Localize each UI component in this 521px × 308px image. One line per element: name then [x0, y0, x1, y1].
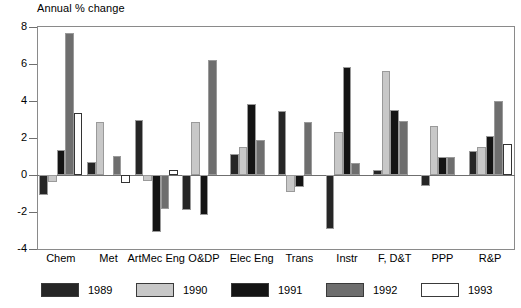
y-tick-label: -4	[1, 243, 27, 254]
y-tick-label: -2	[1, 206, 27, 217]
y-tick-mark	[29, 175, 37, 176]
bar-trans-1991	[295, 175, 304, 187]
chart-legend: 19891990199119921993	[37, 281, 515, 301]
y-tick-mark	[29, 101, 37, 102]
bar-r-p-1989	[469, 151, 478, 175]
bar-f-d-t-1990	[382, 71, 391, 175]
y-tick-label: 2	[1, 132, 27, 143]
zero-baseline	[37, 175, 515, 176]
y-tick-label: 0	[1, 169, 27, 180]
y-tick-mark	[29, 212, 37, 213]
legend-label: 1991	[278, 285, 302, 296]
legend-label: 1990	[183, 285, 207, 296]
bar-r-p-1992	[494, 101, 503, 175]
bar-chem-1993	[74, 113, 83, 175]
legend-item-1992[interactable]: 1992	[326, 281, 397, 299]
bar-met-1990	[96, 122, 105, 175]
bar-r-p-1993	[503, 144, 512, 175]
bar-ppp-1992	[447, 157, 456, 176]
bar-chart: Annual % change 86420-2-4 ChemMetArtMec …	[0, 0, 521, 308]
bar-o-dp-1991	[200, 175, 209, 215]
y-tick-label: 4	[1, 95, 27, 106]
bar-chem-1991	[57, 150, 66, 175]
bar-met-1989	[87, 162, 96, 175]
bar-instr-1990	[334, 132, 343, 175]
y-tick-mark	[29, 27, 37, 28]
legend-swatch-1993	[421, 283, 459, 297]
bar-met-1993	[121, 175, 130, 183]
bar-ppp-1991	[438, 157, 447, 176]
bar-chem-1992	[65, 33, 74, 175]
bar-elec-eng-1991	[247, 104, 256, 175]
bar-ppp-1990	[430, 126, 439, 175]
plot-border-bottom	[37, 249, 515, 250]
bar-trans-1990	[286, 175, 295, 192]
y-tick-mark	[29, 138, 37, 139]
legend-item-1991[interactable]: 1991	[231, 281, 302, 299]
bar-met-1992	[113, 156, 122, 175]
legend-swatch-1990	[136, 283, 174, 297]
y-axis-line	[37, 26, 38, 250]
y-tick-mark	[29, 249, 37, 250]
bar-instr-1991	[343, 67, 352, 175]
bar-artmec-eng-1990	[143, 175, 152, 181]
y-tick-label: 6	[1, 58, 27, 69]
legend-swatch-1989	[41, 283, 79, 297]
bar-chem-1990	[48, 175, 57, 182]
bar-instr-1992	[351, 163, 360, 175]
bar-f-d-t-1991	[390, 110, 399, 175]
legend-label: 1992	[373, 285, 397, 296]
legend-item-1990[interactable]: 1990	[136, 281, 207, 299]
bar-artmec-eng-1992	[161, 175, 170, 209]
legend-label: 1989	[88, 285, 112, 296]
bar-f-d-t-1992	[399, 121, 408, 175]
legend-item-1993[interactable]: 1993	[421, 281, 492, 299]
bar-instr-1989	[326, 175, 335, 229]
legend-item-1989[interactable]: 1989	[41, 281, 112, 299]
bar-o-dp-1990	[191, 122, 200, 175]
bar-r-p-1991	[486, 136, 495, 175]
bar-artmec-eng-1991	[152, 175, 161, 232]
x-tick-label: R&P	[458, 252, 521, 265]
bar-r-p-1990	[477, 147, 486, 175]
bar-o-dp-1989	[182, 175, 191, 210]
y-axis-title: Annual % change	[37, 2, 125, 14]
bar-o-dp-1992	[208, 60, 217, 175]
legend-swatch-1991	[231, 283, 269, 297]
bar-trans-1989	[278, 111, 287, 175]
bar-elec-eng-1990	[239, 147, 248, 175]
plot-border-right	[514, 26, 515, 250]
bar-artmec-eng-1993	[169, 170, 178, 175]
plot-border-top	[37, 26, 515, 27]
bar-artmec-eng-1989	[135, 120, 144, 176]
legend-swatch-1992	[326, 283, 364, 297]
bar-trans-1992	[304, 122, 313, 175]
bar-elec-eng-1989	[230, 154, 239, 175]
bar-ppp-1989	[421, 175, 430, 186]
legend-label: 1993	[468, 285, 492, 296]
y-tick-label: 8	[1, 21, 27, 32]
bar-chem-1989	[39, 175, 48, 195]
y-tick-mark	[29, 64, 37, 65]
bar-f-d-t-1989	[373, 170, 382, 175]
bar-elec-eng-1992	[256, 140, 265, 175]
